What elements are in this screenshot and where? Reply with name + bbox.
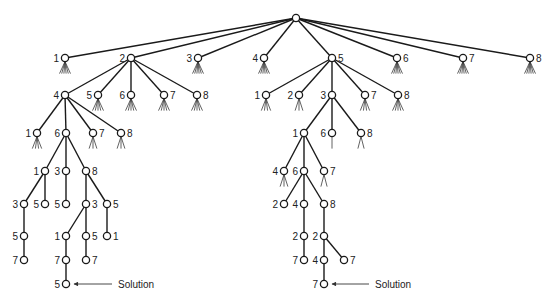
node-label: 5: [12, 231, 18, 242]
node-circle-icon: [340, 256, 347, 263]
tree-edge: [65, 18, 296, 58]
node-circle-icon: [328, 129, 335, 136]
node-circle-icon: [459, 54, 466, 61]
tree-node: 5: [54, 279, 69, 290]
node-circle-icon: [33, 129, 40, 136]
tree-node: 6: [292, 166, 307, 177]
node-label: 6: [320, 128, 326, 139]
node-label: 7: [92, 255, 98, 266]
branch-fan-icon: [159, 99, 170, 111]
tree-node: 7: [340, 255, 356, 266]
branch-fan-icon: [392, 62, 403, 74]
node-label: 3: [320, 90, 326, 101]
node-circle-icon: [526, 54, 533, 61]
node-label: 2: [272, 199, 278, 210]
tree-edge: [66, 204, 86, 236]
node-circle-icon: [300, 200, 307, 207]
node-circle-icon: [82, 232, 89, 239]
node-circle-icon: [82, 200, 89, 207]
tree-node: 4: [292, 199, 307, 210]
tree-edges: [24, 18, 530, 284]
node-circle-icon: [300, 256, 307, 263]
tree-node: 1: [103, 231, 119, 242]
tree-node: 8: [82, 166, 98, 177]
node-label: 1: [254, 90, 260, 101]
branch-fan-icon: [126, 99, 137, 111]
node-circle-icon: [394, 91, 401, 98]
solution-annotation: Solution: [332, 279, 411, 290]
node-circle-icon: [41, 167, 48, 174]
node-label: 1: [292, 128, 298, 139]
tree-node: 7: [292, 255, 307, 266]
tree-node: 1: [254, 90, 269, 101]
node-label: 3: [186, 53, 192, 64]
node-label: 4: [312, 255, 318, 266]
tree-node: 6: [320, 128, 335, 139]
tree-node: 3: [320, 90, 335, 101]
node-circle-icon: [127, 54, 134, 61]
tree-edge: [299, 58, 332, 95]
tree-node: 8: [193, 90, 209, 101]
tree-node: 5: [86, 90, 101, 101]
node-label: 7: [469, 53, 475, 64]
tree-edge: [304, 133, 324, 171]
search-tree-diagram: 1234567845678167813835535515177751237816…: [0, 0, 556, 304]
branch-fan-icon: [193, 62, 204, 74]
node-circle-icon: [300, 167, 307, 174]
tree-node: 1: [54, 231, 69, 242]
node-circle-icon: [103, 232, 110, 239]
tree-node: 7: [82, 255, 98, 266]
node-circle-icon: [89, 129, 96, 136]
node-label: 7: [54, 255, 60, 266]
tree-node: 3: [82, 199, 98, 210]
node-label: 2: [312, 231, 318, 242]
tree-node: 1: [25, 128, 40, 139]
node-label: 8: [536, 53, 542, 64]
tree-node: 8: [117, 128, 133, 139]
solution-annotations: SolutionSolution: [74, 279, 411, 290]
node-circle-icon: [193, 91, 200, 98]
node-label: 8: [404, 90, 410, 101]
tree-node: 3: [186, 53, 201, 64]
tree-node: 8: [357, 128, 373, 139]
tree-node: 7: [459, 53, 475, 64]
node-label: 8: [203, 90, 209, 101]
branch-fan-icon: [358, 137, 364, 149]
node-label: 7: [292, 255, 298, 266]
node-label: 4: [252, 53, 258, 64]
solution-label: Solution: [375, 279, 411, 290]
node-circle-icon: [20, 232, 27, 239]
node-label: 1: [54, 231, 60, 242]
tree-edge: [37, 95, 65, 133]
node-circle-icon: [20, 256, 27, 263]
tree-node: 7: [12, 255, 27, 266]
tree-node: 7: [320, 166, 336, 177]
node-label: 4: [272, 166, 278, 177]
node-label: 5: [33, 199, 39, 210]
branch-fan-icon: [259, 62, 270, 74]
tree-node: 7: [89, 128, 105, 139]
node-label: 7: [12, 255, 18, 266]
node-circle-icon: [357, 129, 364, 136]
node-circle-icon: [280, 167, 287, 174]
node-circle-icon: [292, 14, 299, 21]
tree-edge: [65, 95, 66, 133]
node-label: 5: [92, 231, 98, 242]
tree-node: 6: [119, 90, 134, 101]
solution-annotation: Solution: [74, 279, 154, 290]
node-circle-icon: [361, 91, 368, 98]
tree-node: 5: [12, 231, 27, 242]
branch-fan-icon: [280, 175, 288, 187]
node-label: 6: [54, 128, 60, 139]
branch-fan-icon: [261, 99, 270, 111]
tree-edge: [296, 18, 332, 58]
tree-node: 5: [54, 199, 69, 210]
tree-edge: [98, 58, 131, 95]
branch-fan-icon: [32, 137, 41, 149]
node-circle-icon: [117, 129, 124, 136]
tree-node: 1: [53, 53, 68, 64]
tree-nodes: 1234567845678167813835535515177751237816…: [12, 14, 542, 289]
node-circle-icon: [82, 167, 89, 174]
node-label: 1: [113, 231, 119, 242]
node-circle-icon: [320, 200, 327, 207]
